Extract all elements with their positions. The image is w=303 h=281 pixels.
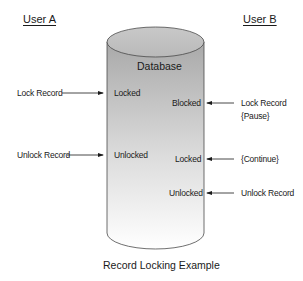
state-blocked-b: Blocked — [172, 98, 201, 108]
user-b-unlock-record: Unlock Record — [241, 188, 294, 198]
diagram-graphics — [0, 0, 303, 281]
user-a-unlock-record: Unlock Record — [17, 150, 70, 160]
database-label: Database — [137, 60, 182, 72]
user-b-continue: {Continue} — [241, 154, 279, 164]
user-b-lock-record: Lock Record — [241, 98, 287, 108]
state-unlocked-b: Unlocked — [169, 188, 203, 198]
state-unlocked-a: Unlocked — [114, 150, 148, 160]
user-a-lock-record: Lock Record — [17, 88, 63, 98]
state-locked-b: Locked — [175, 154, 201, 164]
diagram-caption: Record Locking Example — [103, 259, 220, 271]
user-a-header: User A — [23, 13, 56, 25]
user-b-header: User B — [243, 13, 277, 25]
state-locked-a: Locked — [114, 88, 140, 98]
user-b-pause-note: {Pause} — [241, 111, 269, 121]
